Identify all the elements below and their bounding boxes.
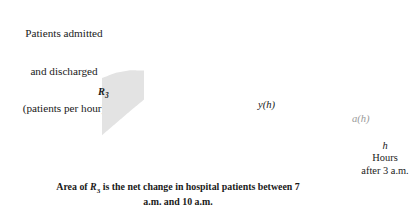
region-label-r3: R3 — [98, 86, 109, 100]
x-axis-label-symbol: h — [357, 140, 413, 152]
figure-caption: Area of R3 is the net change in hospital… — [47, 181, 309, 208]
shaded-region-r3 — [102, 70, 144, 135]
figure-hospital-patients: Patients admitted and discharged (patien… — [0, 0, 413, 212]
curve-label-a: a(h) — [352, 113, 370, 124]
x-axis-label-line-2: Hours — [357, 152, 413, 164]
x-axis-label: h Hours after 3 a.m. — [357, 140, 413, 177]
curve-label-y: y(h) — [258, 99, 275, 110]
x-axis-label-line-3: after 3 a.m. — [357, 165, 413, 177]
